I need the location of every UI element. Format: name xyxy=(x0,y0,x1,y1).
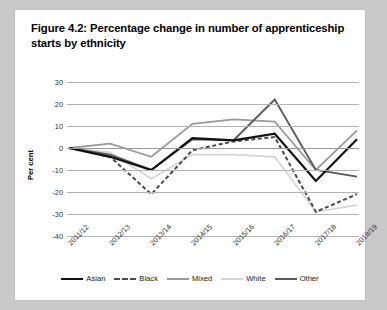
legend-item-white[interactable]: White xyxy=(221,274,265,283)
y-axis-tick-labels: 3020100-10-20-30-40 xyxy=(35,62,63,257)
legend-item-black[interactable]: Black xyxy=(114,274,158,283)
y-axis-title: Per cent xyxy=(26,150,35,180)
gridline-10 xyxy=(67,126,359,127)
gridline-0 xyxy=(67,148,359,149)
legend-label: White xyxy=(246,274,265,283)
legend-swatch-other xyxy=(275,278,297,280)
legend-item-asian[interactable]: Asian xyxy=(61,274,105,283)
legend-swatch-black xyxy=(114,278,136,280)
y-tick-label: -20 xyxy=(37,188,63,197)
legend-swatch-white xyxy=(221,278,243,280)
y-tick-label: -30 xyxy=(37,210,63,219)
legend-label: Other xyxy=(300,274,319,283)
legend-item-other[interactable]: Other xyxy=(275,274,319,283)
legend-label: Mixed xyxy=(192,274,212,283)
legend-swatch-mixed xyxy=(167,278,189,280)
gridline--10 xyxy=(67,170,359,171)
y-tick-label: -40 xyxy=(37,232,63,241)
legend-item-mixed[interactable]: Mixed xyxy=(167,274,212,283)
gridline-20 xyxy=(67,104,359,105)
y-tick-label: 10 xyxy=(37,122,63,131)
figure-card: Figure 4.2: Percentage change in number … xyxy=(14,9,366,301)
gridline--30 xyxy=(67,214,359,215)
chart-plot-area: Per cent 3020100-10-20-30-40 2011/122012… xyxy=(15,62,367,257)
y-tick-label: 30 xyxy=(37,78,63,87)
legend-swatch-asian xyxy=(61,278,83,280)
y-tick-label: -10 xyxy=(37,166,63,175)
gridline-30 xyxy=(67,82,359,83)
legend-label: Black xyxy=(139,274,158,283)
legend-label: Asian xyxy=(86,274,105,283)
y-tick-label: 20 xyxy=(37,100,63,109)
y-tick-label: 0 xyxy=(37,144,63,153)
series-line-asian xyxy=(69,134,357,181)
gridline--20 xyxy=(67,192,359,193)
chart-legend: AsianBlackMixedWhiteOther xyxy=(15,274,365,283)
page-title: Figure 4.2: Percentage change in number … xyxy=(31,21,346,51)
